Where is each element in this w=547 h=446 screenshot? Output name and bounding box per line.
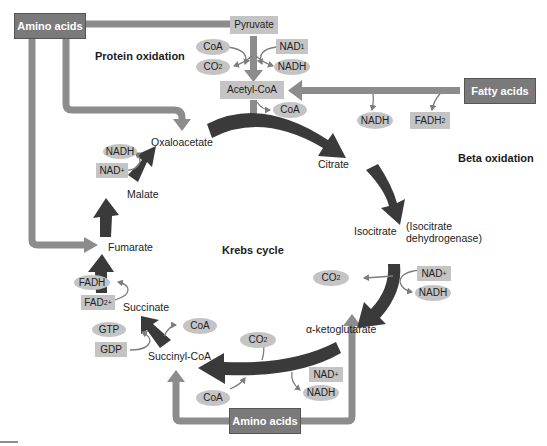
- alpha-ketoglutarate-label: α-ketoglutarate: [306, 324, 376, 335]
- akg-nadh-oval: NADH: [303, 385, 339, 401]
- malate-nadh-oval: NADH: [103, 144, 137, 159]
- isocitrate-enzyme-line1: (Isocitrate: [406, 221, 452, 232]
- fatty-acids-pathway: [288, 80, 460, 101]
- beta-fadh2-box: FADH2: [410, 112, 450, 129]
- succinyl-coa-label: Succinyl-CoA: [148, 351, 211, 362]
- isocitrate-label: Isocitrate: [354, 226, 397, 237]
- oxaloacetate-label: Oxaloacetate: [151, 137, 213, 148]
- fatty-acids-label: Fatty acids: [471, 85, 528, 97]
- fadh-oval: FADH: [74, 275, 110, 290]
- succinate-label: Succinate: [123, 302, 169, 313]
- coa-in-oval: CoA: [196, 39, 230, 55]
- citrate-label: Citrate: [318, 159, 349, 170]
- pyruvate-box: Pyruvate: [230, 16, 278, 34]
- acetyl-coa-out-oval: CoA: [273, 102, 307, 118]
- malate-nad-box: NAD+: [96, 163, 128, 178]
- akg-nad-box: NAD+: [309, 367, 343, 382]
- krebs-cycle-label: Krebs cycle: [222, 245, 284, 256]
- fad-box: FAD2+: [81, 295, 115, 310]
- succinyl-coa-out-oval: CoA: [183, 318, 217, 334]
- protein-oxidation-label: Protein oxidation: [95, 51, 185, 62]
- akg-coa-oval: CoA: [196, 390, 230, 406]
- isocitrate-nadh-oval: NADH: [415, 285, 451, 301]
- isocitrate-nad-box: NAD+: [417, 266, 451, 281]
- fatty-acids-box: Fatty acids: [464, 78, 536, 104]
- nad-in-box: NAD1: [276, 39, 308, 54]
- amino-acids-bottom-label: Amino acids: [232, 415, 297, 427]
- gtp-oval: GTP: [92, 322, 126, 337]
- gdp-box: GDP: [95, 342, 127, 357]
- isocitrate-enzyme-line2: dehydrogenase): [406, 233, 482, 244]
- co2-out-oval: CO2: [196, 59, 230, 75]
- fumarate-label: Fumarate: [108, 242, 153, 253]
- malate-label: Malate: [127, 189, 159, 200]
- beta-oxidation-label: Beta oxidation: [458, 153, 534, 164]
- akg-co2-oval: CO2: [240, 332, 276, 348]
- footer-rule: [0, 441, 18, 443]
- nadh-out-oval: NADH: [274, 59, 310, 75]
- amino-acids-top-label: Amino acids: [17, 20, 82, 32]
- isocitrate-co2-oval: CO2: [313, 270, 349, 286]
- amino-acids-bottom-box: Amino acids: [229, 408, 301, 434]
- beta-nadh-oval: NADH: [357, 112, 393, 129]
- amino-acids-top-box: Amino acids: [14, 13, 86, 39]
- acetyl-coa-box: Acetyl-CoA: [220, 81, 284, 99]
